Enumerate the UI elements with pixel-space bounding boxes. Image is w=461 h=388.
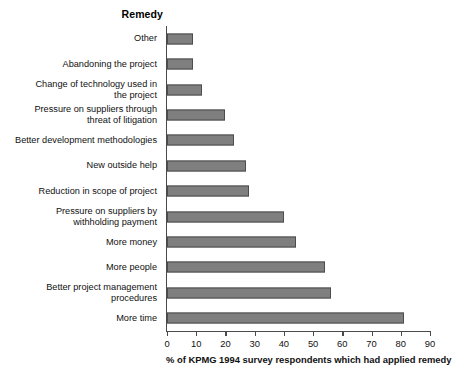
bar-label: Abandoning the project <box>0 59 160 70</box>
bar-label: Other <box>0 33 160 44</box>
bar-row: Pressure on suppliers bywithholding paym… <box>0 204 461 229</box>
bar-label: Pressure on suppliers throughthreat of l… <box>0 104 160 125</box>
x-axis-caption: % of KPMG 1994 survey respondents which … <box>166 354 461 365</box>
x-tick-label: 0 <box>154 338 180 349</box>
x-tick <box>401 331 402 336</box>
bar-row: Other <box>0 26 461 51</box>
bar <box>167 237 296 248</box>
x-tick-label: 30 <box>242 338 268 349</box>
x-tick <box>372 331 373 336</box>
x-tick-label: 10 <box>183 338 209 349</box>
x-tick <box>196 331 197 336</box>
x-tick-label: 70 <box>359 338 385 349</box>
bar <box>167 211 284 222</box>
x-tick <box>255 331 256 336</box>
bar-label: Pressure on suppliers bywithholding paym… <box>0 206 160 227</box>
bar <box>167 135 234 146</box>
bar-row: More money <box>0 229 461 254</box>
x-tick-label: 90 <box>417 338 443 349</box>
x-axis-line <box>166 331 430 332</box>
bar <box>167 262 325 273</box>
bar <box>167 287 331 298</box>
bar-chart: Remedy OtherAbandoning the projectChange… <box>0 0 461 388</box>
bar-row: Abandoning the project <box>0 51 461 76</box>
bar <box>167 160 246 171</box>
x-tick-label: 20 <box>212 338 238 349</box>
x-tick-label: 60 <box>329 338 355 349</box>
bar-row: Change of technology used inthe project <box>0 77 461 102</box>
bar-label: Better development methodologies <box>0 135 160 146</box>
x-tick <box>342 331 343 336</box>
bar-label: More people <box>0 262 160 273</box>
bar-row: Reduction in scope of project <box>0 179 461 204</box>
x-tick <box>167 331 168 336</box>
x-axis: 0102030405060708090 % of KPMG 1994 surve… <box>0 331 461 388</box>
x-tick-label: 40 <box>271 338 297 349</box>
bar <box>167 84 202 95</box>
x-tick <box>313 331 314 336</box>
bar-label: More money <box>0 237 160 248</box>
bar <box>167 33 193 44</box>
bar-label: Reduction in scope of project <box>0 186 160 197</box>
bar <box>167 313 404 324</box>
bar-row: More people <box>0 255 461 280</box>
x-tick <box>284 331 285 336</box>
bar-row: Pressure on suppliers throughthreat of l… <box>0 102 461 127</box>
bar <box>167 109 225 120</box>
bar-row: More time <box>0 306 461 331</box>
bar-row: New outside help <box>0 153 461 178</box>
x-tick <box>225 331 226 336</box>
bar-label: Better project managementprocedures <box>0 282 160 303</box>
bar-row: Better development methodologies <box>0 128 461 153</box>
plot-area: OtherAbandoning the projectChange of tec… <box>0 26 461 331</box>
bar <box>167 59 193 70</box>
x-tick-label: 80 <box>388 338 414 349</box>
bar-label: More time <box>0 313 160 324</box>
bar <box>167 186 249 197</box>
bar-row: Better project managementprocedures <box>0 280 461 305</box>
bar-label: New outside help <box>0 160 160 171</box>
chart-title: Remedy <box>0 8 163 20</box>
x-tick-label: 50 <box>300 338 326 349</box>
x-tick <box>430 331 431 336</box>
bar-label: Change of technology used inthe project <box>0 79 160 100</box>
bar-rows: OtherAbandoning the projectChange of tec… <box>0 26 461 331</box>
